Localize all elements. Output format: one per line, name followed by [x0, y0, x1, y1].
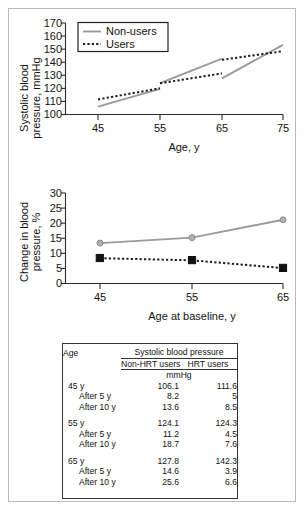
ytick-170: 170 — [44, 17, 62, 29]
table-row: After 5 y 14.6 3.9 — [63, 466, 237, 477]
row-non-hrt: 124.1 — [121, 418, 179, 429]
data-table: Age Systolic blood pressure Non-HRT user… — [63, 344, 237, 487]
chart-middle-svg: Change in blood pressure, % 30 25 20 15 … — [14, 180, 292, 330]
data-point-marker — [96, 254, 103, 261]
data-point-marker — [188, 257, 195, 264]
table-header-blank — [63, 358, 121, 370]
xtick-55: 55 — [186, 291, 198, 303]
chart-middle-xticks — [100, 284, 283, 290]
table-units: mmHg — [121, 370, 237, 381]
chart-top-ytick-labels: 170 160 150 140 130 120 110 100 — [44, 17, 62, 120]
series-users-middle — [96, 254, 286, 271]
ytick-30: 30 — [50, 187, 62, 199]
ytick-15: 15 — [50, 232, 62, 244]
data-point-marker — [97, 240, 103, 246]
chart-middle-panel: Change in blood pressure, % 30 25 20 15 … — [14, 180, 292, 330]
chart-middle-ytick-labels: 30 25 20 15 10 5 0 — [50, 187, 62, 289]
row-label: After 5 y — [63, 391, 121, 402]
chart-middle-ylabel-line2: pressure, % — [30, 212, 42, 271]
chart-top-ylabel: Systolic blood pressure, mmHg — [18, 57, 42, 138]
table-header-row-2: Non-HRT users HRT users — [63, 358, 237, 370]
chart-middle-xtick-labels: 45 55 65 — [94, 291, 289, 303]
chart-top-ylabel-line2: pressure, mmHg — [30, 57, 42, 138]
data-table-panel: Age Systolic blood pressure Non-HRT user… — [62, 343, 238, 499]
row-hrt: 5 — [179, 391, 237, 402]
xtick-65: 65 — [277, 291, 289, 303]
xtick-45: 45 — [92, 122, 104, 134]
row-label: After 10 y — [63, 439, 121, 450]
row-non-hrt: 14.6 — [121, 466, 179, 477]
table-row: 55 y 124.1 124.3 — [63, 418, 237, 429]
row-hrt: 3.9 — [179, 466, 237, 477]
table-row: 65 y 127.8 142.3 — [63, 456, 237, 467]
table-units-blank — [63, 370, 121, 381]
series-non-users-top — [98, 45, 283, 107]
table-row: After 10 y 13.6 8.5 — [63, 402, 237, 413]
table-row: After 5 y 8.2 5 — [63, 391, 237, 402]
row-label: 65 y — [63, 456, 121, 467]
data-point-marker — [279, 264, 286, 271]
chart-middle-xlabel: Age at baseline, y — [148, 310, 236, 322]
table-header-row-1: Age Systolic blood pressure — [63, 347, 237, 358]
row-label: After 10 y — [63, 477, 121, 488]
legend-label-users: Users — [106, 38, 135, 50]
ytick-140: 140 — [44, 56, 62, 68]
row-hrt: 6.6 — [179, 477, 237, 488]
data-point-marker — [189, 235, 195, 241]
ytick-10: 10 — [50, 247, 62, 259]
row-non-hrt: 127.8 — [121, 456, 179, 467]
chart-top-ylabel-line1: Systolic blood — [18, 64, 30, 132]
series-non-users-middle — [97, 217, 286, 246]
legend-label-non-users: Non-users — [106, 25, 157, 37]
row-label: After 10 y — [63, 402, 121, 413]
row-non-hrt: 11.2 — [121, 429, 179, 440]
chart-middle-ylabel: Change in blood pressure, % — [18, 202, 42, 282]
chart-top-svg: Systolic blood pressure, mmHg 170 160 15… — [14, 10, 292, 160]
table-header-span: Systolic blood pressure — [121, 347, 237, 358]
ytick-120: 120 — [44, 82, 62, 94]
row-non-hrt: 18.7 — [121, 439, 179, 450]
table-header-age: Age — [63, 347, 121, 358]
row-non-hrt: 25.6 — [121, 477, 179, 488]
row-label: After 5 y — [63, 429, 121, 440]
table-row: After 10 y 25.6 6.6 — [63, 477, 237, 488]
row-label: 55 y — [63, 418, 121, 429]
xtick-45: 45 — [94, 291, 106, 303]
ytick-130: 130 — [44, 69, 62, 81]
row-hrt: 111.6 — [179, 381, 237, 392]
ytick-110: 110 — [44, 95, 62, 107]
row-hrt: 8.5 — [179, 402, 237, 413]
xtick-65: 65 — [216, 122, 228, 134]
xtick-55: 55 — [154, 122, 166, 134]
row-hrt: 4.5 — [179, 429, 237, 440]
ytick-100: 100 — [44, 108, 62, 120]
ytick-25: 25 — [50, 202, 62, 214]
row-hrt: 124.3 — [179, 418, 237, 429]
row-hrt: 142.3 — [179, 456, 237, 467]
ytick-150: 150 — [44, 43, 62, 55]
data-point-marker — [280, 217, 286, 223]
row-label: 45 y — [63, 381, 121, 392]
row-non-hrt: 13.6 — [121, 402, 179, 413]
table-row: 45 y 106.1 111.6 — [63, 381, 237, 392]
row-non-hrt: 106.1 — [121, 381, 179, 392]
chart-top-xlabel: Age, y — [168, 141, 200, 153]
table-row: After 10 y 18.7 7.6 — [63, 439, 237, 450]
table-row: After 5 y 11.2 4.5 — [63, 429, 237, 440]
chart-top-legend: Non-users Users — [78, 23, 168, 52]
ytick-160: 160 — [44, 30, 62, 42]
chart-top-panel: Systolic blood pressure, mmHg 170 160 15… — [14, 10, 292, 160]
chart-top-xtick-labels: 45 55 65 75 — [92, 122, 289, 134]
row-non-hrt: 8.2 — [121, 391, 179, 402]
xtick-75: 75 — [277, 122, 289, 134]
ytick-20: 20 — [50, 217, 62, 229]
table-header-non-hrt: Non-HRT users — [121, 358, 179, 370]
figure-root: Systolic blood pressure, mmHg 170 160 15… — [0, 0, 305, 519]
chart-top-xticks — [98, 115, 283, 121]
row-label: After 5 y — [63, 466, 121, 477]
table-header-hrt: HRT users — [179, 358, 237, 370]
chart-middle-ylabel-line1: Change in blood — [18, 202, 30, 282]
table-units-row: mmHg — [63, 370, 237, 381]
row-hrt: 7.6 — [179, 439, 237, 450]
series-users-top — [98, 51, 283, 99]
